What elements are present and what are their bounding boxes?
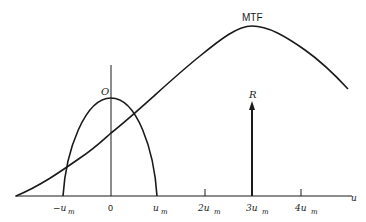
tick-label-3um: 3u m (246, 203, 269, 216)
tick-label-zero: 0 (108, 203, 113, 213)
svg-text:m: m (311, 208, 318, 216)
tick-label-4um: 4u m (294, 203, 318, 216)
mtf-diagram: MTF O R u −u m 0 u m 2u m 3u m 4u m (0, 0, 366, 222)
svg-text:u: u (153, 203, 159, 213)
mtf-label: MTF (242, 12, 263, 23)
svg-text:2u: 2u (197, 203, 210, 213)
u-axis-label: u (351, 193, 357, 203)
tick-label-um: u m (153, 203, 168, 216)
svg-text:m: m (161, 208, 168, 216)
svg-text:4u: 4u (294, 203, 307, 213)
svg-text:−u: −u (53, 203, 67, 213)
object-label: O (101, 86, 109, 97)
svg-text:0: 0 (108, 203, 113, 213)
object-spectrum-curve (63, 98, 157, 196)
svg-text:m: m (68, 208, 75, 216)
arrow-head-icon (249, 101, 255, 110)
tick-label-neg-um: −u m (53, 203, 75, 216)
replica-label: R (248, 89, 257, 100)
svg-text:3u: 3u (246, 203, 258, 213)
svg-text:m: m (214, 208, 221, 216)
svg-text:m: m (262, 208, 269, 216)
tick-label-2um: 2u m (197, 203, 221, 216)
